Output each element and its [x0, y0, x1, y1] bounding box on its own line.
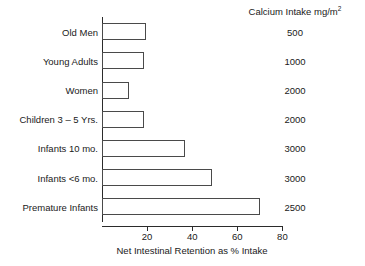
calcium-intake-value: 1000 — [225, 56, 365, 67]
x-axis-tick-label: 40 — [177, 231, 207, 242]
calcium-intake-value: 500 — [225, 27, 365, 38]
x-axis-tick-label: 60 — [222, 231, 252, 242]
bar — [102, 169, 212, 186]
category-label: Infants <6 mo. — [0, 173, 98, 184]
bar — [102, 52, 144, 69]
calcium-intake-value: 2500 — [225, 202, 365, 213]
x-axis-tick-label: 20 — [132, 231, 162, 242]
calcium-intake-column-header: Calcium Intake mg/m2 — [225, 6, 365, 17]
bar-chart: Calcium Intake mg/m2 Old Men500Young Adu… — [0, 0, 365, 266]
bar — [102, 23, 146, 40]
category-label: Old Men — [0, 27, 98, 38]
category-label: Women — [0, 85, 98, 96]
calcium-intake-value: 2000 — [225, 114, 365, 125]
category-label: Young Adults — [0, 56, 98, 67]
x-axis-title: Net Intestinal Retention as % Intake — [92, 245, 292, 256]
bar — [102, 111, 144, 128]
calcium-intake-header-superscript: 2 — [338, 5, 342, 12]
x-axis-tick-label: 80 — [267, 231, 297, 242]
bar — [102, 140, 185, 157]
calcium-intake-value: 2000 — [225, 85, 365, 96]
bar — [102, 82, 129, 99]
calcium-intake-value: 3000 — [225, 173, 365, 184]
category-label: Premature Infants — [0, 202, 98, 213]
calcium-intake-header-text: Calcium Intake mg/m — [249, 6, 338, 17]
calcium-intake-value: 3000 — [225, 143, 365, 154]
category-label: Children 3 – 5 Yrs. — [0, 114, 98, 125]
category-label: Infants 10 mo. — [0, 143, 98, 154]
